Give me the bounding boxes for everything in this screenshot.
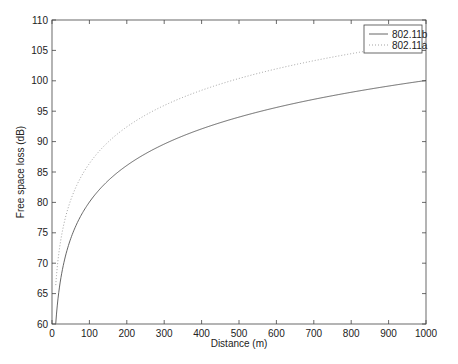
legend: 802.11b802.11a [364, 25, 428, 53]
y-tick-label: 80 [37, 197, 49, 208]
y-tick-label: 100 [31, 75, 48, 86]
y-tick-label: 110 [32, 15, 48, 26]
axes: 0100200300400500600700800900100060657075… [31, 15, 437, 340]
series-line-80211b [56, 81, 426, 324]
x-tick-label: 800 [343, 328, 360, 339]
x-tick-label: 1000 [415, 328, 438, 339]
y-tick-label: 105 [31, 45, 48, 56]
y-axis-label: Free space loss (dB) [15, 126, 26, 218]
legend-label: 802.11b [392, 29, 428, 40]
free-space-loss-chart: 0100200300400500600700800900100060657075… [0, 0, 458, 364]
x-tick-label: 700 [305, 328, 322, 339]
x-tick-label: 300 [156, 328, 173, 339]
axes-frame [52, 20, 426, 324]
x-tick-label: 200 [118, 328, 135, 339]
y-tick-label: 60 [37, 319, 49, 330]
y-tick-label: 90 [37, 136, 49, 147]
series-line-80211a [56, 42, 426, 285]
y-tick-label: 85 [37, 167, 49, 178]
y-tick-label: 70 [37, 258, 49, 269]
legend-label: 802.11a [392, 40, 428, 51]
y-tick-label: 95 [37, 106, 49, 117]
x-axis-label: Distance (m) [211, 338, 268, 349]
x-tick-label: 600 [268, 328, 285, 339]
y-tick-label: 75 [37, 227, 49, 238]
x-tick-label: 0 [49, 328, 55, 339]
x-tick-label: 400 [193, 328, 210, 339]
x-tick-label: 100 [81, 328, 98, 339]
plot-area [56, 42, 426, 324]
x-tick-label: 900 [380, 328, 397, 339]
y-tick-label: 65 [37, 288, 49, 299]
